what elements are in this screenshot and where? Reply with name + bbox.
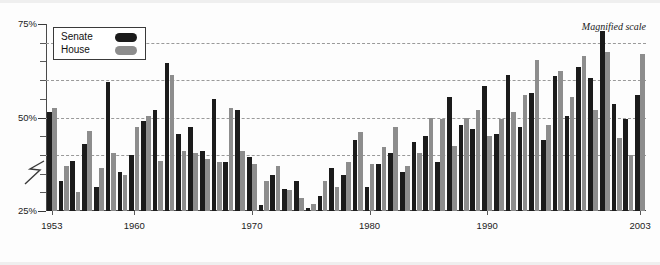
- bar-senate-1982: [388, 153, 393, 211]
- x-tick-1953: [52, 211, 53, 215]
- bar-house-1983: [405, 166, 410, 211]
- x-axis-label-1953: 1953: [41, 221, 62, 231]
- bar-house-1982: [393, 127, 398, 211]
- bar-senate-1966: [200, 151, 205, 211]
- bar-house-1961: [146, 116, 151, 211]
- bar-house-1974: [299, 198, 304, 211]
- bar-senate-1985: [423, 136, 428, 211]
- bar-house-1972: [276, 166, 281, 211]
- bar-house-1958: [111, 153, 116, 211]
- chart-figure: 75%50%25% 195319601970198019902003 Senat…: [0, 0, 660, 265]
- bar-house-1968: [229, 108, 234, 211]
- bar-senate-1989: [470, 129, 475, 211]
- bar-senate-1955: [70, 161, 75, 211]
- page-edge-top: [0, 0, 660, 3]
- bar-senate-1964: [176, 134, 181, 211]
- bar-house-1984: [417, 153, 422, 211]
- bar-senate-1987: [447, 97, 452, 211]
- bar-senate-2001: [612, 104, 617, 211]
- legend-swatch-house: [115, 46, 137, 55]
- bar-senate-1954: [59, 181, 64, 211]
- y-axis-label-50: 50%: [18, 113, 37, 123]
- bar-senate-1958: [106, 82, 111, 211]
- y-tick-65: [40, 61, 46, 62]
- bar-senate-1997: [565, 116, 570, 211]
- x-axis-label-1970: 1970: [241, 221, 262, 231]
- bar-house-1960: [135, 127, 140, 211]
- bar-senate-1972: [270, 175, 275, 211]
- bar-house-1956: [87, 131, 92, 211]
- y-tick-major-75: [38, 24, 46, 25]
- bar-senate-1963: [165, 63, 170, 211]
- x-tick-1990: [487, 211, 488, 215]
- bar-house-1969: [240, 151, 245, 211]
- bar-senate-1996: [553, 76, 558, 211]
- x-axis-label-1980: 1980: [359, 221, 380, 231]
- y-tick-55: [40, 99, 46, 100]
- legend-item-house: House: [61, 45, 137, 55]
- bar-senate-1975: [306, 208, 311, 211]
- bar-house-1997: [570, 97, 575, 211]
- bar-senate-1969: [235, 110, 240, 211]
- bar-house-1978: [346, 162, 351, 211]
- bar-senate-1984: [412, 142, 417, 211]
- bar-senate-1970: [247, 157, 252, 211]
- bar-senate-1981: [376, 164, 381, 211]
- bar-senate-1959: [118, 172, 123, 211]
- bar-senate-1976: [318, 196, 323, 211]
- bar-senate-1974: [294, 181, 299, 211]
- bar-senate-1968: [223, 162, 228, 211]
- bar-house-1994: [535, 60, 540, 211]
- bar-house-1999: [593, 110, 598, 211]
- bar-house-1976: [323, 181, 328, 211]
- bar-house-2000: [605, 52, 610, 211]
- bar-senate-1988: [459, 125, 464, 211]
- bar-senate-1993: [518, 127, 523, 211]
- bar-senate-1990: [482, 86, 487, 211]
- bar-house-1986: [440, 119, 445, 211]
- bar-senate-2003: [635, 95, 640, 211]
- bar-senate-1998: [576, 67, 581, 211]
- bar-house-1966: [205, 159, 210, 211]
- bar-house-1998: [582, 56, 587, 211]
- legend-label-house: House: [61, 45, 105, 55]
- x-tick-1960: [134, 211, 135, 215]
- bar-house-1979: [358, 132, 363, 211]
- bar-senate-1977: [329, 168, 334, 211]
- bar-house-1964: [182, 151, 187, 211]
- bar-senate-1979: [353, 140, 358, 211]
- bar-house-1993: [523, 95, 528, 211]
- bar-house-1962: [158, 161, 163, 211]
- bar-house-1981: [382, 147, 387, 211]
- bar-senate-1978: [341, 175, 346, 211]
- x-tick-1970: [252, 211, 253, 215]
- legend-swatch-senate: [115, 33, 137, 42]
- y-tick-45: [40, 136, 46, 137]
- x-axis-label-1990: 1990: [477, 221, 498, 231]
- bar-senate-1962: [153, 110, 158, 211]
- bar-house-1959: [123, 175, 128, 211]
- bar-senate-1971: [259, 205, 264, 211]
- bar-house-1967: [217, 162, 222, 211]
- bar-senate-2002: [623, 119, 628, 211]
- bar-house-1977: [335, 187, 340, 211]
- legend-item-senate: Senate: [61, 32, 137, 42]
- bar-house-1992: [511, 112, 516, 211]
- chart-legend: Senate House: [53, 27, 146, 60]
- y-tick-60: [40, 80, 46, 81]
- bar-house-1954: [64, 166, 69, 211]
- bar-house-1965: [193, 153, 198, 211]
- bar-senate-1980: [365, 187, 370, 211]
- y-tick-30: [40, 192, 46, 193]
- axis-break-icon: [24, 160, 46, 186]
- x-tick-2003: [640, 211, 641, 215]
- bar-house-1991: [499, 119, 504, 211]
- bar-house-1973: [287, 190, 292, 211]
- bar-senate-1995: [541, 140, 546, 211]
- bar-senate-1992: [506, 75, 511, 212]
- bar-senate-1973: [282, 189, 287, 211]
- bar-senate-1967: [212, 99, 217, 211]
- magnified-scale-annotation: Magnified scale: [582, 21, 646, 32]
- bar-senate-1965: [188, 127, 193, 211]
- y-axis-label-75: 75%: [18, 19, 37, 29]
